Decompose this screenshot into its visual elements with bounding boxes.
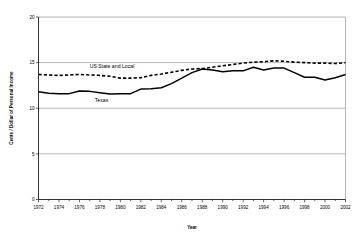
x-tick-label-1974: 1974 bbox=[54, 205, 65, 210]
x-tick-label-1972: 1972 bbox=[33, 205, 44, 210]
x-tick-label-1986: 1986 bbox=[177, 205, 188, 210]
y-tick-label-15: 15 bbox=[29, 60, 35, 65]
texas-label: Texas bbox=[95, 97, 109, 103]
y-tick-label-5: 5 bbox=[32, 152, 35, 157]
x-tick-label-1976: 1976 bbox=[74, 205, 85, 210]
x-tick-label-1996: 1996 bbox=[279, 205, 290, 210]
y-tick-label-0: 0 bbox=[32, 197, 35, 202]
x-tick-label-1988: 1988 bbox=[197, 205, 208, 210]
x-tick-label-1982: 1982 bbox=[136, 205, 147, 210]
x-axis-title: Year bbox=[187, 225, 197, 230]
x-tick-label-1992: 1992 bbox=[238, 205, 249, 210]
x-tick-label-1980: 1980 bbox=[115, 205, 126, 210]
x-tick-label-1978: 1978 bbox=[95, 205, 106, 210]
x-tick-label-1990: 1990 bbox=[218, 205, 229, 210]
x-tick-label-1984: 1984 bbox=[156, 205, 167, 210]
y-axis-title: Cents / Dollar of Personal Income bbox=[9, 71, 14, 145]
x-tick-label-2000: 2000 bbox=[320, 205, 331, 210]
x-tick-label-2002: 2002 bbox=[340, 205, 351, 210]
y-tick-label-20: 20 bbox=[29, 15, 35, 20]
line-chart: 20151050 1972197419761978198019821984198… bbox=[0, 0, 356, 236]
x-tick-label-1994: 1994 bbox=[259, 205, 270, 210]
chart-background bbox=[0, 0, 356, 236]
us-state-local-label: US State and Local bbox=[90, 63, 135, 69]
x-tick-label-1998: 1998 bbox=[299, 205, 310, 210]
y-tick-label-10: 10 bbox=[29, 106, 35, 111]
chart-container: 20151050 1972197419761978198019821984198… bbox=[0, 0, 356, 236]
